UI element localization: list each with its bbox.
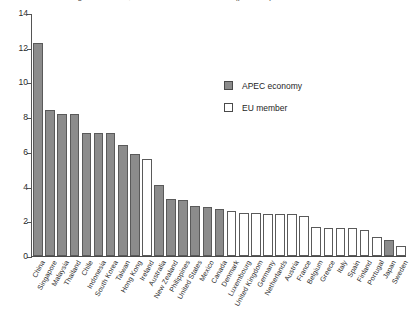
y-tick-label: 12 [19, 43, 28, 53]
bar-greece [324, 228, 334, 256]
bar-luxembourg [239, 213, 249, 256]
bar-taiwan [118, 145, 128, 256]
y-tick-label: 10 [19, 77, 28, 87]
bar-malaysia [57, 114, 67, 256]
y-tick-label: 14 [19, 8, 28, 18]
y-tick-label: 0 [23, 251, 28, 261]
bar-germany [263, 214, 273, 256]
bar-austria [287, 214, 297, 256]
plot-area: 02468101214 [31, 14, 406, 257]
legend-swatch-eu-icon [224, 103, 233, 112]
bar-canada [215, 209, 225, 256]
bar-singapore [45, 110, 55, 256]
x-axis-labels: ChinaSingaporeMalaysiaThailandChileIndon… [31, 259, 406, 318]
legend-label-eu: EU member [242, 103, 287, 113]
bar-hong-kong [130, 154, 140, 256]
chart-legend: APEC economy EU member [224, 78, 302, 122]
y-tick-label: 2 [23, 216, 28, 226]
legend-swatch-apec-icon [224, 81, 233, 90]
bar-south-korea [106, 133, 116, 256]
bar-china [33, 43, 43, 256]
bar-series [32, 14, 406, 256]
bar-italy [336, 228, 346, 256]
y-tick-label: 4 [23, 182, 28, 192]
y-tick-label: 6 [23, 147, 28, 157]
bar-netherlands [275, 214, 285, 256]
bar-united-kingdom [251, 213, 261, 256]
legend-item-eu: EU member [224, 100, 302, 115]
bar-sweden [396, 246, 406, 256]
bar-chile [82, 133, 92, 256]
bar-ireland [142, 159, 152, 256]
bar-mexico [203, 207, 213, 256]
bar-australia [154, 185, 164, 256]
chart-title: Average tariff rates, APEC and EU econom… [55, 0, 355, 2]
bar-thailand [70, 114, 80, 256]
bar-portugal [372, 237, 382, 256]
legend-label-apec: APEC economy [242, 81, 302, 91]
x-axis-line [31, 256, 406, 257]
bar-new-zealand [166, 199, 176, 256]
bar-spain [348, 228, 358, 256]
bar-chart: Average tariff rates, APEC and EU econom… [0, 0, 413, 318]
bar-belgium [311, 227, 321, 257]
y-tick: 0 [31, 257, 32, 258]
bar-japan [384, 240, 394, 256]
bar-philippines [178, 200, 188, 256]
bar-indonesia [94, 133, 104, 256]
bar-france [299, 216, 309, 256]
bar-denmark [227, 211, 237, 256]
bar-finland [360, 230, 370, 256]
y-tick-label: 8 [23, 112, 28, 122]
bar-united-states [190, 206, 200, 256]
legend-item-apec: APEC economy [224, 78, 302, 93]
